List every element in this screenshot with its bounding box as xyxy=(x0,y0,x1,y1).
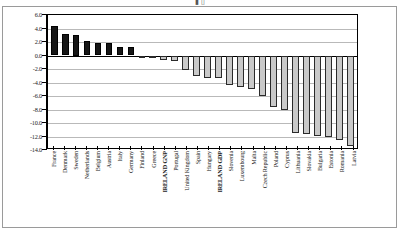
bar-item[interactable] xyxy=(323,15,334,148)
bar-negative[interactable] xyxy=(193,56,200,76)
bar-positive[interactable] xyxy=(128,47,135,55)
x-axis-item: Bulgaria xyxy=(314,150,325,228)
bar-negative[interactable] xyxy=(149,56,156,58)
x-tick-mark xyxy=(319,146,320,150)
bar-positive[interactable] xyxy=(117,47,124,55)
x-tick-mark xyxy=(97,146,98,150)
x-axis-item: Denmark xyxy=(58,150,69,228)
bar-item[interactable] xyxy=(148,15,159,148)
bar-negative[interactable] xyxy=(237,56,244,87)
y-tick-label: 6.0 xyxy=(35,11,42,18)
bar-item[interactable] xyxy=(71,15,82,148)
bar-item[interactable] xyxy=(301,15,312,148)
x-axis-item: Spain xyxy=(191,150,202,228)
x-tick-label: Poland xyxy=(271,151,278,167)
bar-item[interactable] xyxy=(49,15,60,148)
bar-negative[interactable] xyxy=(160,56,167,61)
bar-negative[interactable] xyxy=(171,56,178,61)
bar-item[interactable] xyxy=(181,15,192,148)
bar-negative[interactable] xyxy=(314,56,321,136)
bar-item[interactable] xyxy=(312,15,323,148)
bar-positive[interactable] xyxy=(73,35,80,55)
bar-negative[interactable] xyxy=(259,56,266,97)
bar-negative[interactable] xyxy=(248,56,255,90)
x-tick-mark xyxy=(230,146,231,150)
x-tick-label: United Kingdom xyxy=(182,151,189,191)
bar-item[interactable] xyxy=(246,15,257,148)
x-axis-item: United Kingdom xyxy=(180,150,191,228)
x-tick-mark xyxy=(64,146,65,150)
bar-item[interactable] xyxy=(170,15,181,148)
bar-negative[interactable] xyxy=(204,56,211,78)
x-tick-label: Denmark xyxy=(60,151,67,173)
x-axis-item: Austria xyxy=(103,150,114,228)
x-tick-label: Czech Republic xyxy=(260,151,267,188)
x-tick-mark xyxy=(308,146,309,150)
bar-negative[interactable] xyxy=(347,56,354,146)
bar-item[interactable] xyxy=(93,15,104,148)
x-tick-label: Sweden xyxy=(71,151,78,170)
x-axis-item: Czech Republic xyxy=(258,150,269,228)
bar-item[interactable] xyxy=(115,15,126,148)
x-tick-mark xyxy=(130,146,131,150)
bar-negative[interactable] xyxy=(139,56,146,58)
bar-item[interactable] xyxy=(82,15,93,148)
x-tick-mark xyxy=(197,146,198,150)
bar-item[interactable] xyxy=(159,15,170,148)
bar-negative[interactable] xyxy=(215,56,222,79)
bar-item[interactable] xyxy=(268,15,279,148)
x-tick-label: Belgium xyxy=(93,151,100,171)
x-tick-label: Austria xyxy=(105,151,112,168)
x-axis-item: Portugal xyxy=(169,150,180,228)
bar-negative[interactable] xyxy=(182,56,189,71)
bar-item[interactable] xyxy=(192,15,203,148)
bar-negative[interactable] xyxy=(281,56,288,110)
x-tick-mark xyxy=(264,146,265,150)
x-tick-mark xyxy=(75,146,76,150)
x-tick-mark xyxy=(297,146,298,150)
x-tick-label: Greece xyxy=(149,151,156,168)
bar-positive[interactable] xyxy=(95,43,102,56)
bar-negative[interactable] xyxy=(292,56,299,134)
bar-positive[interactable] xyxy=(106,43,113,55)
bar-item[interactable] xyxy=(279,15,290,148)
x-tick-label: Luxembourg xyxy=(238,151,245,181)
x-tick-mark xyxy=(341,146,342,150)
bar-item[interactable] xyxy=(104,15,115,148)
bar-item[interactable] xyxy=(345,15,356,148)
x-tick-label: Finland xyxy=(138,151,145,169)
bar-item[interactable] xyxy=(214,15,225,148)
chart-page: ▮ ▯ 6.04.02.00.0-2.0-4.0-6.0-8.0-10.0-12… xyxy=(0,0,400,231)
bar-item[interactable] xyxy=(137,15,148,148)
bar-positive[interactable] xyxy=(51,26,58,55)
x-tick-label: IRELAND GNP xyxy=(160,151,167,193)
bar-positive[interactable] xyxy=(84,41,91,55)
y-tick-label: -10.0 xyxy=(30,119,42,126)
bar-negative[interactable] xyxy=(303,56,310,135)
bar-item[interactable] xyxy=(60,15,71,148)
bar-item[interactable] xyxy=(126,15,137,148)
x-tick-mark xyxy=(241,146,242,150)
x-axis-item: IRELAND GNP xyxy=(158,150,169,228)
bar-item[interactable] xyxy=(257,15,268,148)
bar-negative[interactable] xyxy=(226,56,233,85)
bar-negative[interactable] xyxy=(270,56,277,107)
bar-item[interactable] xyxy=(290,15,301,148)
x-axis-item: Lithuania xyxy=(291,150,302,228)
bar-positive[interactable] xyxy=(62,34,69,56)
x-tick-mark xyxy=(86,146,87,150)
x-tick-mark xyxy=(330,146,331,150)
bar-item[interactable] xyxy=(225,15,236,148)
bar-item[interactable] xyxy=(334,15,345,148)
x-tick-mark xyxy=(208,146,209,150)
bar-item[interactable] xyxy=(203,15,214,148)
x-tick-label: Italy xyxy=(116,151,123,162)
x-axis-item: Belgium xyxy=(91,150,102,228)
x-tick-label: Portugal xyxy=(171,151,178,171)
x-tick-mark xyxy=(186,146,187,150)
bar-item[interactable] xyxy=(235,15,246,148)
bar-negative[interactable] xyxy=(336,56,343,140)
bar-series xyxy=(48,15,357,148)
y-tick-label: -12.0 xyxy=(30,132,42,139)
bar-negative[interactable] xyxy=(325,56,332,138)
